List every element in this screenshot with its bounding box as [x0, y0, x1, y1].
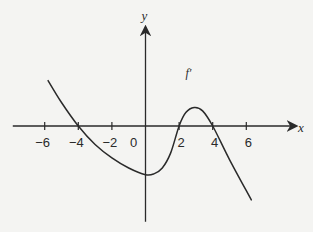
x-tick-label: −6 [35, 135, 50, 150]
y-axis-label: y [140, 8, 148, 23]
function-label: f′ [186, 66, 192, 80]
graph-canvas: −6−4−2246 x y 0 f′ [0, 0, 313, 232]
x-tick-label: −2 [102, 135, 117, 150]
x-axis-label: x [297, 120, 304, 135]
x-tick-label: 6 [245, 135, 252, 150]
function-graph: −6−4−2246 x y 0 f′ [0, 0, 313, 232]
x-tick-label: 2 [177, 135, 184, 150]
x-tick-label: 4 [211, 135, 218, 150]
x-tick-label: −4 [69, 135, 84, 150]
origin-label: 0 [130, 135, 137, 150]
axes [13, 27, 296, 222]
